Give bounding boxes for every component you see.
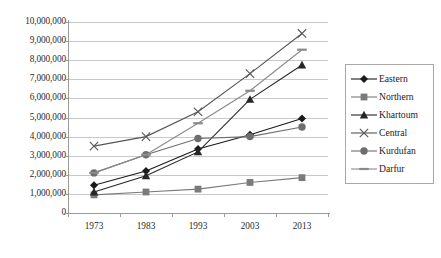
chart-container: 10,000,0009,000,0008,000,0007,000,0006,0… [0, 0, 441, 258]
legend-marker-triangle-icon [349, 108, 379, 122]
data-point-triangle [298, 61, 306, 69]
data-point-circle [360, 147, 367, 154]
legend-item-label: Northern [379, 90, 414, 104]
data-point-square [195, 186, 202, 193]
data-point-diamond [298, 114, 306, 122]
data-point-triangle [246, 95, 254, 103]
legend-item-central[interactable]: Central [349, 124, 430, 142]
series-line [94, 33, 302, 146]
data-point-square [299, 174, 306, 181]
data-point-triangle [142, 172, 150, 180]
legend-item-label: Khartoum [379, 108, 418, 122]
data-point-dash [359, 168, 369, 170]
data-point-square [361, 94, 368, 101]
data-point-dash [89, 172, 99, 174]
legend-item-label: Eastern [379, 72, 408, 86]
data-point-dash [193, 122, 203, 124]
legend-item-darfur[interactable]: Darfur [349, 160, 430, 178]
legend-marker-square-icon [349, 90, 379, 104]
legend-item-northern[interactable]: Northern [349, 88, 430, 106]
data-point-dash [297, 49, 307, 51]
data-point-dash [141, 154, 151, 156]
legend-marker-circle-icon [349, 144, 379, 158]
data-point-x [246, 69, 254, 77]
data-point-dash [245, 90, 255, 92]
series-khartoum [90, 61, 306, 196]
legend-item-label: Central [379, 126, 407, 140]
data-point-square [143, 189, 150, 196]
data-point-circle [246, 133, 253, 140]
legend-item-label: Darfur [379, 162, 405, 176]
data-point-diamond [360, 75, 368, 83]
data-point-circle [298, 123, 305, 130]
legend-marker-x-icon [349, 126, 379, 140]
legend-marker-diamond-icon [349, 72, 379, 86]
legend-marker-dash-icon [349, 162, 379, 176]
chart-legend: EasternNorthernKhartoumCentralKurdufanDa… [345, 64, 434, 184]
legend-item-label: Kurdufan [379, 144, 416, 158]
legend-item-khartoum[interactable]: Khartoum [349, 106, 430, 124]
data-point-square [247, 179, 254, 186]
legend-item-eastern[interactable]: Eastern [349, 70, 430, 88]
data-point-x [298, 29, 306, 37]
legend-item-kurdufan[interactable]: Kurdufan [349, 142, 430, 160]
data-point-x [194, 108, 202, 116]
data-point-circle [194, 135, 201, 142]
